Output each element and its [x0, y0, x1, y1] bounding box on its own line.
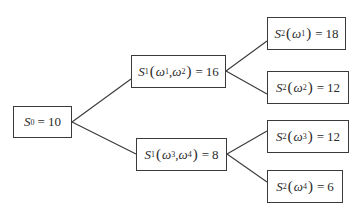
- open-paren: (: [156, 146, 161, 163]
- subscript: 0: [31, 118, 35, 127]
- subscript: 2: [282, 83, 286, 92]
- edge-s1-up-s2-w1: [226, 41, 267, 71]
- node-s2-w1: S2 ( ω1 ) = 18: [267, 17, 346, 50]
- node-value: 16: [206, 64, 219, 80]
- edge-s1-down-s2-w4: [227, 154, 267, 182]
- open-paren: (: [287, 128, 292, 145]
- node-value: 18: [326, 26, 339, 42]
- omega-symbol: ω: [292, 26, 301, 42]
- omega-symbol: ω: [172, 64, 181, 80]
- omega-symbol: ω: [178, 147, 187, 163]
- subscript: 1: [301, 29, 305, 38]
- node-value: 8: [212, 147, 219, 163]
- equals-sign: =: [202, 147, 209, 163]
- subscript: 3: [303, 132, 307, 141]
- subscript: 2: [181, 67, 185, 76]
- open-paren: (: [287, 79, 292, 96]
- node-s2-w2: S2 ( ω2 ) = 12: [267, 71, 349, 104]
- open-paren: (: [288, 178, 293, 195]
- equals-sign: =: [195, 64, 202, 80]
- omega-symbol: ω: [294, 179, 303, 195]
- equals-sign: =: [317, 179, 324, 195]
- node-value: 6: [327, 179, 334, 195]
- node-value: 12: [327, 129, 340, 145]
- subscript: 2: [281, 29, 285, 38]
- subscript: 2: [283, 182, 287, 191]
- close-paren: ): [186, 63, 191, 80]
- edge-s0-s1-down: [72, 122, 136, 154]
- edge-s1-down-s2-w3: [227, 131, 267, 154]
- close-paren: ): [193, 146, 198, 163]
- edge-s1-up-s2-w2: [226, 71, 267, 94]
- close-paren: ): [308, 128, 313, 145]
- subscript: 1: [151, 150, 155, 159]
- omega-symbol: ω: [156, 64, 165, 80]
- subscript: 1: [145, 67, 149, 76]
- subscript: 2: [282, 132, 286, 141]
- subscript: 4: [303, 182, 307, 191]
- open-paren: (: [150, 63, 155, 80]
- close-paren: ): [308, 178, 313, 195]
- close-paren: ): [308, 79, 313, 96]
- node-s2-w4: S2 ( ω4 ) = 6: [267, 170, 343, 203]
- equals-sign: =: [38, 114, 45, 130]
- edge-s0-s1-up: [72, 79, 131, 122]
- equals-sign: =: [315, 26, 322, 42]
- omega-symbol: ω: [293, 80, 302, 96]
- close-paren: ): [306, 25, 311, 42]
- node-value: 10: [48, 114, 61, 130]
- node-s1-down: S1 ( ω3, ω4 ) = 8: [136, 138, 227, 171]
- omega-symbol: ω: [293, 129, 302, 145]
- subscript: 4: [188, 150, 192, 159]
- node-s0: S0 = 10: [13, 106, 72, 138]
- subscript: 2: [303, 83, 307, 92]
- equals-sign: =: [317, 80, 324, 96]
- node-s1-up: S1 ( ω1, ω2 ) = 16: [131, 55, 226, 88]
- node-value: 12: [327, 80, 340, 96]
- omega-symbol: ω: [162, 147, 171, 163]
- node-s2-w3: S2 ( ω3 ) = 12: [267, 120, 349, 153]
- equals-sign: =: [317, 129, 324, 145]
- open-paren: (: [286, 25, 291, 42]
